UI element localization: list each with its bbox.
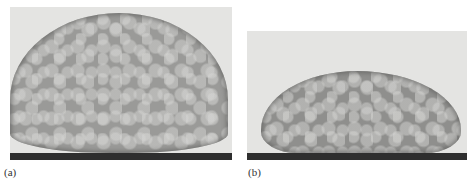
panel-label-a: (a) — [4, 166, 16, 178]
panel-label-b: (b) — [248, 166, 261, 178]
substrate-b — [247, 153, 467, 160]
substrate-a — [10, 153, 232, 160]
photo-panel-a — [10, 7, 232, 160]
photo-panel-b — [247, 31, 467, 160]
droplet-a — [10, 13, 228, 153]
droplet-b — [261, 71, 461, 153]
